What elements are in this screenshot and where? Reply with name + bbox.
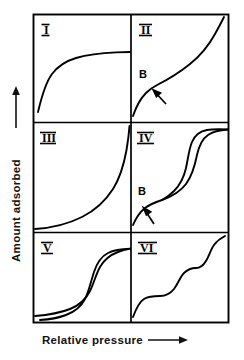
arrow-pointer-icon [152,88,167,104]
up-arrow-icon [12,86,20,128]
x-axis-label: Relative pressure [42,334,143,346]
panel-1: I [38,23,130,112]
right-arrow-icon [148,336,188,343]
arrow-pointer-icon [142,206,154,224]
panel-5-desorption-curve [40,249,130,320]
y-axis-label-group: Amount adsorbed [10,86,22,262]
y-axis-label: Amount adsorbed [10,159,22,262]
panel-4: IV B [133,129,228,225]
panel-2-annotation-B: B [139,68,166,104]
panel-3: III [35,126,130,229]
panel-5: V [35,241,130,320]
x-axis-label-group: Relative pressure [42,334,188,346]
panel-2: II B [133,17,224,116]
isotherm-figure: Amount adsorbed Relative pressure I II B [0,0,244,360]
panel-2-b-label: B [139,68,147,80]
panel-5-adsorption-curve [35,249,130,316]
panel-1-curve [38,52,130,112]
panel-4-b-label: B [138,185,146,197]
panel-6: VI [133,236,225,317]
